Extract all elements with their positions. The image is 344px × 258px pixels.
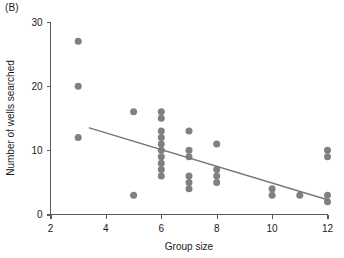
x-tick-label: 4 — [103, 223, 109, 234]
data-point — [213, 179, 220, 186]
data-point — [213, 173, 220, 180]
data-point — [158, 108, 165, 115]
data-point — [324, 192, 331, 199]
y-tick-label: 0 — [37, 209, 43, 220]
x-tick-label: 8 — [214, 223, 220, 234]
data-point — [158, 140, 165, 147]
y-tick-label: 30 — [31, 17, 43, 28]
data-point — [75, 134, 82, 141]
x-axis-ticks: 24681012 — [48, 215, 334, 234]
regression-line — [89, 128, 327, 200]
data-point — [158, 128, 165, 135]
data-point — [324, 153, 331, 160]
data-point — [75, 38, 82, 45]
data-point — [130, 192, 137, 199]
x-tick-label: 2 — [48, 223, 54, 234]
y-tick-label: 20 — [31, 81, 43, 92]
figure-panel-b: (B) 0102030 24681012 Group size Number o… — [0, 0, 344, 258]
data-point — [269, 192, 276, 199]
y-axis-title: Number of wells searched — [5, 60, 16, 176]
data-point — [158, 134, 165, 141]
x-tick-label: 10 — [267, 223, 279, 234]
scatter-plot: 0102030 24681012 Group size Number of we… — [0, 0, 344, 258]
y-axis-ticks: 0102030 — [31, 17, 50, 221]
data-point — [158, 160, 165, 167]
data-point — [158, 173, 165, 180]
data-point — [186, 179, 193, 186]
x-axis-title: Group size — [165, 241, 214, 252]
data-point — [186, 173, 193, 180]
data-point — [75, 83, 82, 90]
data-point — [186, 147, 193, 154]
data-point — [324, 147, 331, 154]
data-point — [186, 128, 193, 135]
data-point — [213, 140, 220, 147]
data-point — [186, 185, 193, 192]
data-point — [158, 153, 165, 160]
regression-line-group — [89, 128, 327, 200]
x-tick-label: 12 — [322, 223, 334, 234]
data-point — [269, 185, 276, 192]
y-tick-label: 10 — [31, 145, 43, 156]
data-point — [158, 115, 165, 122]
x-tick-label: 6 — [159, 223, 165, 234]
data-points — [75, 38, 331, 205]
data-point — [130, 108, 137, 115]
data-point — [158, 166, 165, 173]
